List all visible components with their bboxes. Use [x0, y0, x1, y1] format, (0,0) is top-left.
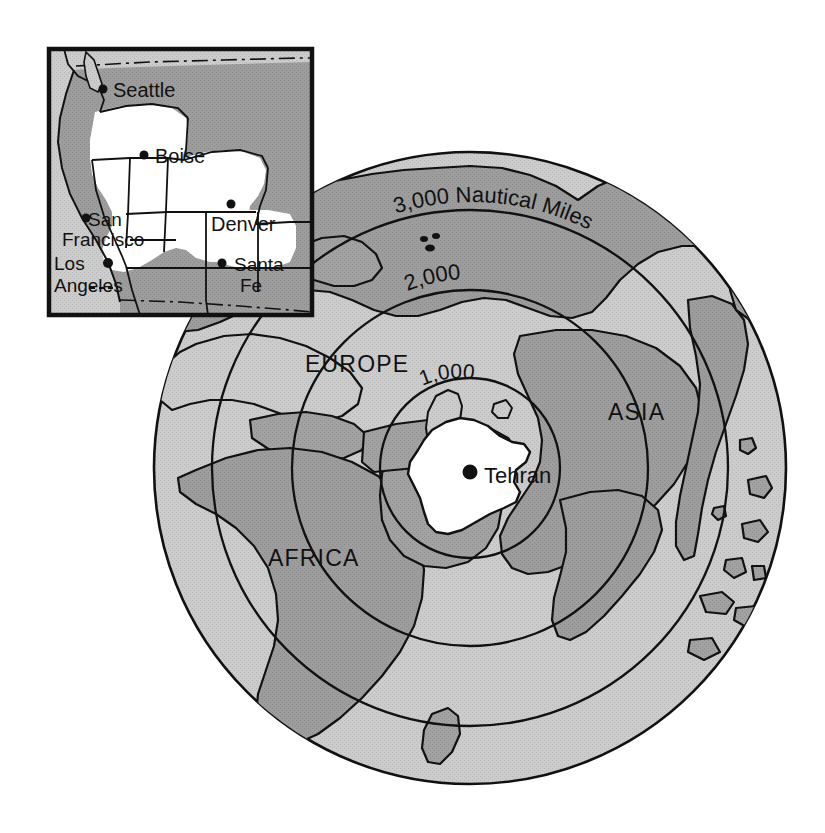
- inset-city-label-san-francisco-line2: Francisco: [62, 229, 144, 250]
- city-dot-los-angeles: [103, 258, 113, 268]
- inset-contents: Seattle Boise Denver San Francisco Los A…: [49, 49, 312, 315]
- inset-city-label-seattle: Seattle: [113, 79, 175, 101]
- continent-label-africa: AFRICA: [268, 545, 360, 571]
- inset-city-label-los-angeles-line1: Los: [54, 253, 85, 274]
- city-dot-denver: [227, 200, 236, 209]
- inset-city-label-boise: Boise: [155, 145, 205, 167]
- inset-city-label-los-angeles-line2: Angeles: [54, 275, 123, 296]
- city-dot-seattle: [99, 85, 108, 94]
- continent-label-asia: ASIA: [608, 399, 665, 425]
- inset-city-label-denver: Denver: [211, 213, 276, 235]
- islet-f: [752, 566, 766, 580]
- water-aral-sea: [492, 400, 512, 418]
- continent-label-europe: EUROPE: [305, 351, 409, 377]
- islet-j: [728, 650, 748, 666]
- inset-city-label-santa-fe-line2: Fe: [240, 275, 262, 296]
- island-arc-upper: [688, 210, 748, 242]
- inset-city-label-san-francisco-line1: San: [88, 209, 122, 230]
- inset-city-label-santa-fe-line1: Santa: [234, 254, 284, 275]
- inset-map-western-us: Seattle Boise Denver San Francisco Los A…: [49, 49, 312, 315]
- city-dot-boise: [140, 151, 149, 160]
- map-figure: 1,000 2,000 3,000 Nautical Miles EUROPE …: [0, 0, 825, 833]
- city-dot-santa-fe: [218, 259, 227, 268]
- tehran-city-label: Tehran: [484, 463, 551, 488]
- figure-canvas: 1,000 2,000 3,000 Nautical Miles EUROPE …: [0, 0, 825, 833]
- tehran-city-dot: [463, 465, 478, 480]
